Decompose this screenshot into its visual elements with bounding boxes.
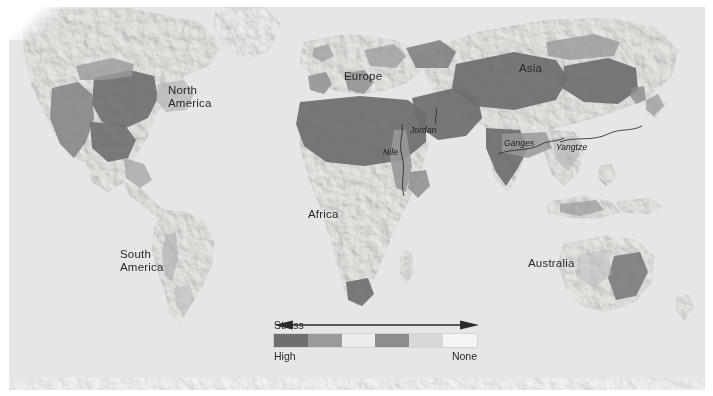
legend-swatch-low-medium [375, 334, 409, 347]
double-headed-arrow-icon [274, 319, 479, 331]
map-plate: North America South America Europe Afric… [8, 6, 705, 390]
label-south-america: South America [120, 248, 164, 273]
stress-legend: Stress High None [274, 319, 479, 362]
legend-swatch-medium [342, 334, 376, 347]
land-antarctic-edge [8, 378, 705, 390]
label-europe: Europe [344, 70, 382, 83]
legend-swatch-high-medium [308, 334, 342, 347]
label-river-yangtze: Yangtze [556, 142, 587, 152]
label-australia: Australia [528, 257, 575, 270]
label-north-america: North America [168, 84, 212, 109]
world-water-stress-figure: North America South America Europe Afric… [0, 0, 713, 396]
legend-high-label: High [274, 350, 296, 362]
label-asia: Asia [519, 62, 542, 75]
legend-none-label: None [452, 350, 477, 362]
label-river-nile: Nile [383, 147, 398, 157]
paper-edge-right [705, 0, 713, 396]
label-river-jordan: Jordan [410, 125, 437, 135]
legend-swatch-high [274, 334, 308, 347]
legend-swatch-none [443, 334, 477, 347]
legend-swatch-low [409, 334, 443, 347]
paper-edge-bottom [0, 390, 713, 396]
legend-scale: High None [274, 350, 477, 362]
label-river-ganges: Ganges [504, 138, 534, 148]
legend-color-bar [274, 334, 477, 347]
label-africa: Africa [308, 208, 339, 221]
